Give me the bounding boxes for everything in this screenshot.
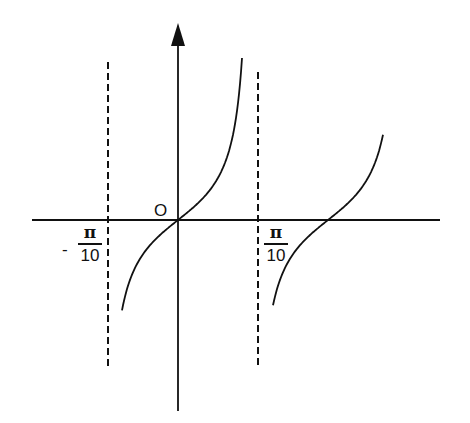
tan-branch-center	[122, 58, 242, 310]
asymptote-right-label: π 10	[264, 224, 288, 264]
fraction-bar	[78, 243, 102, 245]
fraction-numerator: π	[84, 224, 96, 242]
fraction-bar	[264, 243, 288, 245]
tan-graph	[0, 0, 470, 423]
fraction-numerator: π	[270, 224, 282, 242]
y-axis-arrow-icon	[171, 23, 185, 46]
minus-sign: -	[62, 240, 68, 260]
fraction-denominator: 10	[267, 247, 286, 264]
asymptote-left-label: π 10	[78, 224, 102, 264]
origin-label: O	[154, 202, 167, 219]
fraction-denominator: 10	[81, 247, 100, 264]
